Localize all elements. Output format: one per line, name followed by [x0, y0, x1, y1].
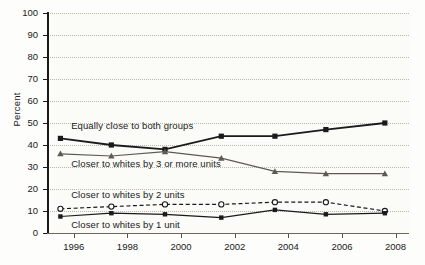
series-label-3: Closer to whites by 1 unit: [71, 219, 180, 230]
data-series-layer: [0, 0, 425, 265]
data-point-marker: [273, 208, 277, 212]
data-point-marker: [162, 202, 167, 207]
data-point-marker: [163, 212, 167, 216]
line-chart: Percent 0102030405060708090100 199619982…: [0, 0, 425, 265]
data-point-marker: [109, 204, 114, 209]
series-3: [58, 208, 387, 220]
data-point-marker: [324, 212, 328, 216]
series-2: [58, 200, 388, 214]
data-point-marker: [109, 211, 113, 215]
data-point-marker: [382, 120, 387, 125]
data-point-marker: [272, 134, 277, 139]
series-label-0: Equally close to both groups: [71, 120, 193, 131]
data-point-marker: [109, 142, 114, 147]
data-point-marker: [383, 211, 387, 215]
data-point-marker: [272, 200, 277, 205]
data-point-marker: [58, 206, 63, 211]
data-point-marker: [58, 214, 62, 218]
data-point-marker: [323, 200, 328, 205]
series-label-1: Closer to whites by 3 or more units: [71, 158, 221, 169]
data-point-marker: [219, 215, 223, 219]
data-point-marker: [219, 134, 224, 139]
series-label-2: Closer to whites by 2 units: [71, 189, 185, 200]
data-point-marker: [219, 202, 224, 207]
data-point-marker: [323, 127, 328, 132]
data-point-marker: [58, 136, 63, 141]
